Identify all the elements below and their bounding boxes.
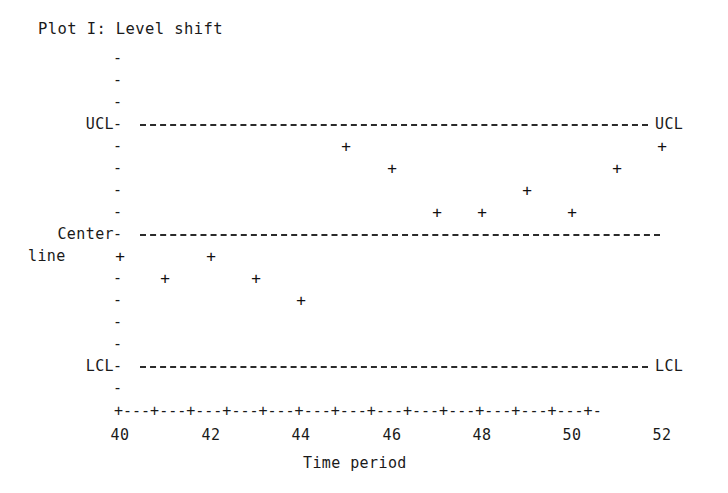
data-point: + [340, 139, 352, 155]
data-point: + [386, 161, 398, 177]
x-tick-label: 42 [191, 428, 231, 443]
lcl-label-right: LCL [655, 359, 683, 374]
ucl-label-right: UCL [655, 117, 683, 132]
data-point: + [295, 293, 307, 309]
y-axis-tick: - [113, 337, 122, 352]
y-axis-tick: - [113, 205, 122, 220]
y-axis-tick: - [113, 183, 122, 198]
x-tick-label: 46 [372, 428, 412, 443]
y-axis-tick: - [113, 271, 122, 286]
ucl-label-left: UCL [28, 117, 114, 132]
y-axis-tick-center: - [113, 227, 122, 242]
y-axis-tick: - [113, 315, 122, 330]
data-point: + [250, 271, 262, 287]
lcl-line [140, 366, 648, 368]
y-axis-tick: - [113, 293, 122, 308]
y-axis-tick: - [113, 51, 122, 66]
y-axis-tick: - [113, 381, 122, 396]
x-tick-label: 52 [642, 428, 682, 443]
x-axis-title: Time period [303, 456, 407, 471]
x-tick-label: 44 [281, 428, 321, 443]
center-line-label-left: Center [28, 227, 114, 242]
x-axis-line: +---+---+---+---+---+---+---+---+---+---… [114, 404, 602, 419]
ucl-line [140, 124, 648, 126]
data-point: + [159, 271, 171, 287]
y-axis-tick: - [113, 139, 122, 154]
data-point: + [566, 205, 578, 221]
data-point: + [431, 205, 443, 221]
data-point: + [521, 183, 533, 199]
control-chart-figure: Plot I: Level shift - - - - - - - - - - … [0, 0, 728, 493]
y-axis-tick: - [113, 73, 122, 88]
data-point: + [205, 249, 217, 265]
y-axis-tick-ucl: - [113, 117, 122, 132]
x-tick-label: 50 [552, 428, 592, 443]
x-tick-label: 40 [100, 428, 140, 443]
center-line [140, 234, 660, 236]
y-axis-tick-lcl: - [113, 359, 122, 374]
data-point: + [656, 139, 668, 155]
lcl-label-left: LCL [28, 359, 114, 374]
center-line-label-left-2: line [28, 249, 66, 264]
data-point: + [611, 161, 623, 177]
data-point: + [476, 205, 488, 221]
plot-title: Plot I: Level shift [38, 22, 223, 37]
y-axis-tick: - [113, 95, 122, 110]
data-point: + [114, 249, 126, 265]
x-tick-label: 48 [462, 428, 502, 443]
y-axis-tick: - [113, 161, 122, 176]
